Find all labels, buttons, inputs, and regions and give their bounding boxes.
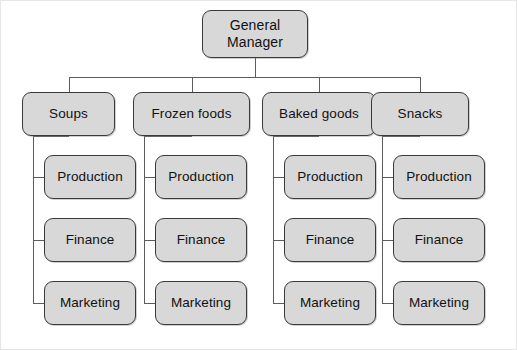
node-general-manager[interactable]: General Manager — [202, 10, 308, 58]
node-soups-finance-label: Finance — [66, 232, 115, 248]
connector-snacks-to-marketing — [382, 303, 393, 304]
node-frozen-foods-finance-label: Finance — [177, 232, 226, 248]
connector-elbow-baked-goods — [273, 136, 319, 137]
connector-spine-frozen-foods — [144, 136, 145, 303]
node-snacks-production-label: Production — [406, 169, 472, 185]
connector-elbow-snacks — [382, 136, 420, 137]
node-baked-goods-marketing[interactable]: Marketing — [284, 281, 376, 325]
node-baked-goods-finance[interactable]: Finance — [284, 218, 376, 262]
node-baked-goods-production[interactable]: Production — [284, 155, 376, 199]
connector-baked-goods-to-marketing — [273, 303, 284, 304]
connector-bus-to-baked-goods — [319, 77, 320, 92]
node-frozen-foods-marketing-label: Marketing — [171, 295, 231, 311]
node-snacks-finance[interactable]: Finance — [393, 218, 485, 262]
connector-spine-soups — [33, 136, 34, 303]
node-division-snacks[interactable]: Snacks — [371, 92, 469, 136]
node-soups-marketing[interactable]: Marketing — [44, 281, 136, 325]
connector-elbow-soups — [33, 136, 69, 137]
connector-division-bus — [70, 77, 421, 78]
node-snacks-finance-label: Finance — [415, 232, 464, 248]
node-soups-marketing-label: Marketing — [60, 295, 120, 311]
node-soups-finance[interactable]: Finance — [44, 218, 136, 262]
connector-spine-baked-goods — [273, 136, 274, 303]
node-frozen-foods-production[interactable]: Production — [155, 155, 247, 199]
connector-soups-to-finance — [33, 240, 44, 241]
frame-edge-top — [0, 0, 517, 1]
node-division-soups[interactable]: Soups — [22, 92, 115, 136]
node-general-manager-label: General Manager — [227, 17, 283, 51]
node-baked-goods-finance-label: Finance — [306, 232, 355, 248]
connector-soups-to-production — [33, 177, 44, 178]
node-division-soups-label: Soups — [49, 106, 88, 122]
node-snacks-marketing-label: Marketing — [409, 295, 469, 311]
node-frozen-foods-production-label: Production — [168, 169, 234, 185]
connector-frozen-foods-to-marketing — [144, 303, 155, 304]
connector-spine-snacks — [382, 136, 383, 303]
connector-elbow-frozen-foods — [144, 136, 192, 137]
node-frozen-foods-marketing[interactable]: Marketing — [155, 281, 247, 325]
connector-snacks-to-production — [382, 177, 393, 178]
connector-bus-to-snacks — [420, 77, 421, 92]
connector-baked-goods-to-production — [273, 177, 284, 178]
node-division-baked-goods[interactable]: Baked goods — [262, 92, 376, 136]
node-division-snacks-label: Snacks — [398, 106, 443, 122]
node-division-frozen-foods[interactable]: Frozen foods — [133, 92, 250, 136]
connector-root-stem — [255, 58, 256, 77]
node-baked-goods-marketing-label: Marketing — [300, 295, 360, 311]
frame-edge-left — [0, 0, 1, 350]
connector-frozen-foods-to-finance — [144, 240, 155, 241]
node-snacks-production[interactable]: Production — [393, 155, 485, 199]
node-frozen-foods-finance[interactable]: Finance — [155, 218, 247, 262]
node-division-baked-goods-label: Baked goods — [279, 106, 359, 122]
node-soups-production-label: Production — [57, 169, 123, 185]
node-baked-goods-production-label: Production — [297, 169, 363, 185]
connector-bus-to-frozen-foods — [192, 77, 193, 92]
org-chart-diagram: General ManagerSoupsProductionFinanceMar… — [0, 0, 517, 350]
node-soups-production[interactable]: Production — [44, 155, 136, 199]
node-division-frozen-foods-label: Frozen foods — [152, 106, 232, 122]
connector-frozen-foods-to-production — [144, 177, 155, 178]
connector-bus-to-soups — [69, 77, 70, 92]
connector-soups-to-marketing — [33, 303, 44, 304]
connector-snacks-to-finance — [382, 240, 393, 241]
connector-baked-goods-to-finance — [273, 240, 284, 241]
node-snacks-marketing[interactable]: Marketing — [393, 281, 485, 325]
